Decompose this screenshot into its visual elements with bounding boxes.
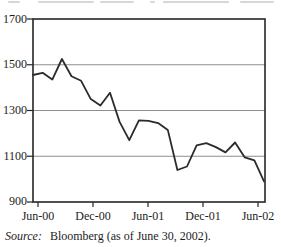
x-axis-tick-label: Dec-01 [181,210,225,223]
source-note-label: Source: [5,229,42,243]
data-line [33,59,264,181]
x-axis-tick-label: Jun-02 [236,210,280,223]
x-axis-tick-label: Dec-00 [71,210,115,223]
y-axis-tick-label: 900 [0,195,27,208]
source-note: Source:Bloomberg (as of June 30, 2002). [5,229,211,244]
figure: 1700 1500 1300 1100 900 Jun-00 Dec-00 Ju… [0,0,281,247]
x-axis-tick-label: Jun-00 [16,210,60,223]
y-axis-tick-label: 1300 [0,104,27,117]
y-axis-tick-label: 1100 [0,150,27,163]
y-axis-tick-label: 1500 [0,58,27,71]
x-axis-tick-label: Jun-01 [126,210,170,223]
source-note-text: Bloomberg (as of June 30, 2002). [50,229,211,243]
y-axis-tick-label: 1700 [0,13,27,26]
